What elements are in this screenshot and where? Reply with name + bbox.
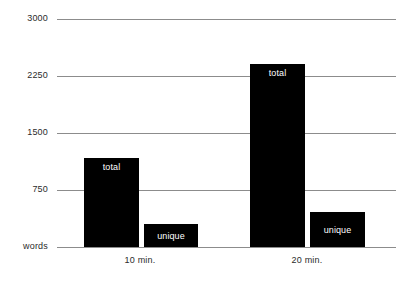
y-tick-label-750: 750 [0,184,48,194]
gridline-baseline-0 [57,247,396,248]
y-tick-label-3000: 3000 [0,13,48,23]
y-axis: 3000 2250 1500 750 words [0,0,50,281]
x-tick-label-20min: 20 min. [267,255,347,265]
gridline-1500 [57,133,396,134]
bar-chart: 3000 2250 1500 750 words total unique to… [0,0,417,281]
bar-20min-total: total [250,64,305,247]
x-tick-label-10min: 10 min. [100,255,180,265]
y-axis-title-words: words [0,241,48,251]
y-tick-label-2250: 2250 [0,70,48,80]
bar-20min-unique: unique [310,212,365,247]
bar-label-10min-unique: unique [144,230,198,241]
bar-label-10min-total: total [84,162,139,173]
bar-10min-total: total [84,158,139,247]
bar-label-20min-total: total [250,68,305,79]
y-tick-label-1500: 1500 [0,127,48,137]
bar-label-20min-unique: unique [310,224,365,235]
gridline-2250 [57,76,396,77]
plot-area: total unique total unique [57,19,396,247]
gridline-3000 [57,19,396,20]
bar-10min-unique: unique [144,224,198,247]
